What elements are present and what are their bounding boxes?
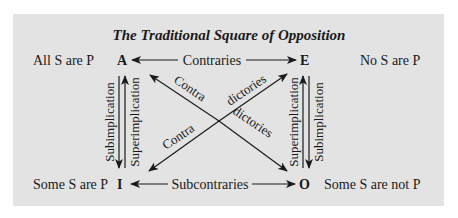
left-implication-relation: Subimplication Superimplication bbox=[102, 76, 142, 168]
contra-upper-label: Contra bbox=[171, 72, 209, 104]
square-of-opposition-diagram: The Traditional Square of Opposition All… bbox=[0, 0, 458, 218]
subimplication-left-label: Subimplication bbox=[102, 82, 117, 162]
diagram-title: The Traditional Square of Opposition bbox=[113, 27, 346, 43]
statement-e: No S are P bbox=[360, 53, 420, 68]
statement-i: Some S are P bbox=[33, 177, 108, 192]
right-implication-relation: Superimplication Subimplication bbox=[286, 76, 326, 168]
statement-o: Some S are not P bbox=[324, 177, 421, 192]
subcontraries-relation: Subcontraries bbox=[131, 177, 295, 192]
contraries-label: Contraries bbox=[183, 53, 241, 68]
superimplication-left-label: Superimplication bbox=[127, 77, 142, 167]
letter-o: O bbox=[299, 177, 310, 192]
contradictories-relation: Contra dictories Contra dictories bbox=[149, 71, 287, 171]
letter-a: A bbox=[117, 53, 128, 68]
subimplication-right-label: Subimplication bbox=[311, 82, 326, 162]
subcontraries-label: Subcontraries bbox=[172, 177, 249, 192]
letter-e: E bbox=[300, 53, 309, 68]
statement-a: All S are P bbox=[33, 53, 94, 68]
contra-lower-label: Contra bbox=[159, 120, 197, 152]
contraries-relation: Contraries bbox=[132, 53, 296, 68]
superimplication-right-label: Superimplication bbox=[286, 77, 301, 167]
letter-i: I bbox=[117, 177, 122, 192]
